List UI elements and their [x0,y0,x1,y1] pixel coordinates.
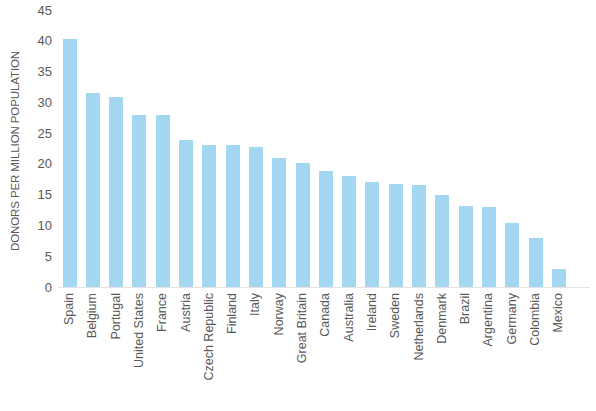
x-label-slot: Finland [221,290,244,408]
x-label-slot: Mexico [547,290,570,408]
y-axis-tick-0: 0 [24,281,52,294]
bar[interactable] [505,223,519,287]
bar-slot [198,10,221,287]
x-axis-label: Great Britain [291,290,314,408]
bar-slot [314,10,337,287]
x-axis-label: Mexico [547,290,570,408]
x-axis-label: United States [128,290,151,408]
bar[interactable] [63,39,77,287]
bar-slot [384,10,407,287]
bar[interactable] [412,185,426,287]
y-axis-tick-15: 15 [24,188,52,201]
x-label-slot: Brazil [454,290,477,408]
y-axis-tick-45: 45 [24,4,52,17]
x-axis-label: Colombia [524,290,547,408]
y-axis-tick-10: 10 [24,219,52,232]
bar[interactable] [435,195,449,287]
bar[interactable] [296,163,310,287]
x-label-slot: Czech Republic [198,290,221,408]
bar[interactable] [389,184,403,287]
x-axis-label: Argentina [477,290,500,408]
x-axis-label: Australia [338,290,361,408]
y-axis-tick-20: 20 [24,157,52,170]
x-label-slot: Norway [268,290,291,408]
bar[interactable] [179,140,193,287]
x-axis-label: Netherlands [408,290,431,408]
bar-slot [338,10,361,287]
bar[interactable] [109,97,123,287]
bar-slot [128,10,151,287]
bar[interactable] [459,206,473,287]
x-label-slot: Canada [314,290,337,408]
x-axis-label: Canada [314,290,337,408]
x-label-slot: Spain [58,290,81,408]
x-axis-label: Spain [58,290,81,408]
x-label-slot: France [151,290,174,408]
bar-chart-figure: DONORS PER MILLION POPULATION 4540353025… [0,0,596,411]
bar-slot [291,10,314,287]
x-axis-label: Austria [175,290,198,408]
bar[interactable] [156,115,170,287]
bar[interactable] [342,176,356,287]
y-axis-tick-25: 25 [24,127,52,140]
x-axis-label: Czech Republic [198,290,221,408]
bar-slot [244,10,267,287]
bar-slot [361,10,384,287]
bar-slot [151,10,174,287]
bar-slot [524,10,547,287]
y-axis-tick-5: 5 [24,250,52,263]
bar-slot [81,10,104,287]
bar[interactable] [202,145,216,287]
x-axis-label: Portugal [105,290,128,408]
x-label-slot: Germany [501,290,524,408]
x-label-slot: United States [128,290,151,408]
bar[interactable] [319,171,333,287]
plot-area [58,10,592,287]
y-axis-tick-labels: 454035302520151050 [24,0,52,300]
bar[interactable] [86,93,100,288]
x-axis-baseline [58,287,590,288]
bar[interactable] [365,182,379,287]
bar[interactable] [226,145,240,287]
x-axis-label: Brazil [454,290,477,408]
x-axis-label: Finland [221,290,244,408]
x-axis-label: France [151,290,174,408]
bar-slot [454,10,477,287]
bar-slot [547,10,570,287]
x-label-slot: Colombia [524,290,547,408]
bar-slot [221,10,244,287]
bar-slot [431,10,454,287]
x-label-slot: Argentina [477,290,500,408]
bar[interactable] [132,115,146,287]
x-label-slot: Italy [244,290,267,408]
y-axis-tick-30: 30 [24,96,52,109]
bar-slot [105,10,128,287]
y-axis-title: DONORS PER MILLION POPULATION [4,6,26,296]
bar[interactable] [482,207,496,287]
x-label-slot: Ireland [361,290,384,408]
bar[interactable] [272,158,286,287]
y-axis-tick-35: 35 [24,65,52,78]
x-label-slot: Portugal [105,290,128,408]
bar-slot [408,10,431,287]
x-label-slot: Great Britain [291,290,314,408]
bar-slot [477,10,500,287]
x-axis-label: Belgium [81,290,104,408]
x-axis-label: Sweden [384,290,407,408]
x-axis-label: Ireland [361,290,384,408]
x-axis-label: Italy [244,290,267,408]
bar-slot [501,10,524,287]
x-label-slot: Sweden [384,290,407,408]
bar[interactable] [249,147,263,287]
bar[interactable] [529,238,543,287]
x-axis-label: Germany [501,290,524,408]
x-label-slot: Australia [338,290,361,408]
y-axis-tick-40: 40 [24,34,52,47]
x-axis-category-labels: SpainBelgiumPortugalUnited StatesFranceA… [58,290,592,410]
bar-slot [268,10,291,287]
bar-slot [58,10,81,287]
x-label-slot: Austria [175,290,198,408]
x-axis-label: Denmark [431,290,454,408]
x-label-slot: Belgium [81,290,104,408]
bar[interactable] [552,269,566,287]
